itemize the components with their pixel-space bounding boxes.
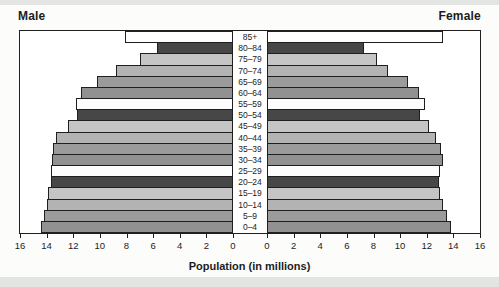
- plot-area: 85+80–8475–7970–7465–6960–6455–5950–5445…: [19, 30, 481, 234]
- pyramid-rows: 85+80–8475–7970–7465–6960–6455–5950–5445…: [20, 31, 480, 233]
- female-bar: [267, 221, 451, 233]
- tick-mark: [206, 234, 207, 238]
- tick-mark: [153, 234, 154, 238]
- tick-mark: [320, 234, 321, 238]
- tick-mark: [347, 234, 348, 238]
- age-group-label: 0–4: [233, 221, 267, 233]
- page-band-bottom: [0, 277, 499, 287]
- x-axis-title: Population (in millions): [0, 260, 499, 272]
- tick-label: 16: [475, 240, 486, 251]
- tick-mark: [127, 234, 128, 238]
- tick-label: 2: [204, 240, 209, 251]
- tick-mark: [180, 234, 181, 238]
- tick-label: 16: [15, 240, 26, 251]
- tick-label: 2: [291, 240, 296, 251]
- tick-label: 8: [371, 240, 376, 251]
- pyramid-row: 0–4: [20, 221, 480, 233]
- population-pyramid-figure: Male Female 85+80–8475–7970–7465–6960–64…: [0, 0, 499, 287]
- tick-label: 10: [95, 240, 106, 251]
- tick-mark: [20, 234, 21, 238]
- tick-mark: [73, 234, 74, 238]
- tick-mark: [267, 234, 268, 238]
- tick-label: 4: [318, 240, 323, 251]
- tick-label: 14: [448, 240, 459, 251]
- tick-label: 6: [344, 240, 349, 251]
- tick-label: 10: [395, 240, 406, 251]
- tick-label: 12: [421, 240, 432, 251]
- tick-label: 4: [177, 240, 182, 251]
- female-axis-label: Female: [438, 9, 481, 23]
- tick-label: 6: [150, 240, 155, 251]
- tick-mark: [480, 234, 481, 238]
- tick-mark: [100, 234, 101, 238]
- x-axis: 16141210864200246810121416: [19, 234, 481, 256]
- tick-label: 8: [124, 240, 129, 251]
- page-band-top: [0, 0, 499, 5]
- tick-mark: [374, 234, 375, 238]
- tick-mark: [453, 234, 454, 238]
- male-bar-cell: [20, 221, 233, 233]
- tick-label: 14: [41, 240, 52, 251]
- tick-mark: [400, 234, 401, 238]
- tick-label: 0: [264, 240, 269, 251]
- tick-label: 12: [68, 240, 79, 251]
- female-bar-cell: [267, 221, 480, 233]
- tick-mark: [47, 234, 48, 238]
- male-axis-label: Male: [18, 9, 45, 23]
- tick-label: 0: [230, 240, 235, 251]
- tick-mark: [294, 234, 295, 238]
- tick-mark: [233, 234, 234, 238]
- tick-mark: [427, 234, 428, 238]
- male-bar: [41, 221, 233, 233]
